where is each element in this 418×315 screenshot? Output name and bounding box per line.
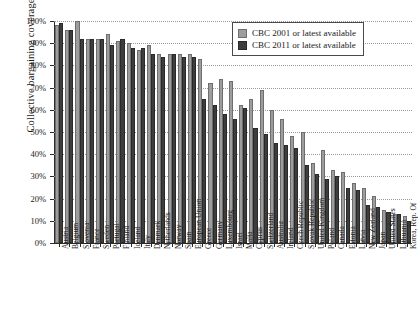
x-axis-label: Belgium	[72, 223, 80, 249]
y-axis-tick-label: 100%	[6, 17, 46, 25]
x-axis-label: New Zealand	[369, 208, 377, 249]
x-axis-label: Poland	[328, 228, 336, 249]
x-axis-label: Israel	[236, 232, 244, 249]
x-axis-label: Norway	[175, 225, 183, 249]
x-axis-label: Spain	[185, 232, 193, 249]
bar-group	[54, 21, 64, 243]
y-axis-tick-label: 80%	[6, 61, 46, 69]
bar-2011	[172, 54, 176, 243]
x-axis-label: Korea, Rep. Of	[410, 203, 418, 249]
x-axis-label: European Union	[195, 199, 203, 249]
legend-swatch-icon-2011	[238, 41, 247, 50]
x-axis-label: Luxembourg	[226, 210, 234, 249]
x-axis-label: Australia	[277, 221, 285, 249]
chart-legend: CBC 2001 or latest available CBC 2011 or…	[232, 22, 364, 56]
x-axis-label: Iceland	[134, 227, 142, 249]
bar-group	[85, 21, 95, 243]
x-axis-label: Lithuania	[400, 220, 408, 249]
x-axis-label: United Kingdom	[318, 198, 326, 249]
y-axis-tick-label: 30%	[6, 172, 46, 180]
bar-group	[167, 21, 177, 243]
bar-2011	[131, 48, 135, 243]
collective-bargaining-coverage-chart: Collective bargaining coverage 0%10%20%3…	[0, 0, 418, 315]
bar-group	[207, 21, 217, 243]
bar-2011	[141, 48, 145, 243]
bar-group	[105, 21, 115, 243]
bar-2011	[69, 30, 73, 243]
bar-2011	[151, 54, 155, 243]
legend-label-2011: CBC 2011 or latest available	[252, 40, 356, 50]
x-axis-tick-mark	[59, 243, 60, 247]
bar-2011	[59, 23, 63, 243]
legend-label-2001: CBC 2001 or latest available	[252, 28, 356, 38]
x-axis-label: France	[93, 228, 101, 249]
bar-2011	[182, 57, 186, 243]
x-axis-label: Switzerland	[267, 213, 275, 249]
bar-2011	[253, 128, 257, 243]
x-axis-label: Slovenia	[83, 222, 91, 249]
bar-group	[126, 21, 136, 243]
bar-2011	[90, 39, 94, 243]
x-axis-label: Finland	[123, 226, 131, 249]
x-axis-label: Austria	[62, 227, 70, 249]
bar-2011	[100, 39, 104, 243]
x-axis-label: Netherlands	[164, 212, 172, 249]
legend-swatch-icon-2001	[238, 29, 247, 38]
x-axis-label: Malta	[246, 231, 254, 249]
y-axis-tick-label: 70%	[6, 84, 46, 92]
bar-2011	[110, 45, 114, 243]
x-axis-label: Portugal	[113, 223, 121, 249]
y-axis-tick-label: 90%	[6, 39, 46, 47]
bar-group	[146, 21, 156, 243]
bar-group	[136, 21, 146, 243]
y-axis-tick-label: 20%	[6, 195, 46, 203]
legend-item-2001: CBC 2001 or latest available	[238, 27, 356, 39]
bar-2011	[120, 39, 124, 243]
x-axis-label: Canada	[338, 226, 346, 249]
x-axis-label: Ireland	[287, 227, 295, 249]
y-axis-tick-label: 40%	[6, 150, 46, 158]
bar-group	[177, 21, 187, 243]
y-axis-tick-mark	[50, 243, 54, 244]
x-axis-label: Japan	[379, 232, 387, 249]
bar-group	[74, 21, 84, 243]
x-axis-label: Slovak Republic	[308, 199, 316, 249]
x-axis-label: Denmark	[154, 221, 162, 249]
x-axis-label: Estonia	[349, 226, 357, 249]
y-axis-tick-label: 60%	[6, 106, 46, 114]
x-axis-label: Latvia	[359, 230, 367, 249]
x-axis-label: Czech Republic	[297, 201, 305, 249]
bar-group	[95, 21, 105, 243]
bar-group	[115, 21, 125, 243]
x-axis-label: Greece	[205, 228, 213, 250]
bar-group	[64, 21, 74, 243]
y-axis-tick-label: 10%	[6, 217, 46, 225]
bar-2011	[243, 108, 247, 243]
x-axis-label: Germany	[216, 221, 224, 249]
legend-item-2011: CBC 2011 or latest available	[238, 39, 356, 51]
x-axis-label: Cyprus	[256, 227, 264, 249]
y-axis-tick-label: 50%	[6, 128, 46, 136]
x-axis-label: United States	[389, 208, 397, 249]
y-axis-tick-label: 0%	[6, 239, 46, 247]
bar-group	[156, 21, 166, 243]
x-axis-label: Sweden	[103, 225, 111, 249]
bar-2011	[80, 39, 84, 243]
x-axis-label: Italy	[144, 235, 152, 249]
